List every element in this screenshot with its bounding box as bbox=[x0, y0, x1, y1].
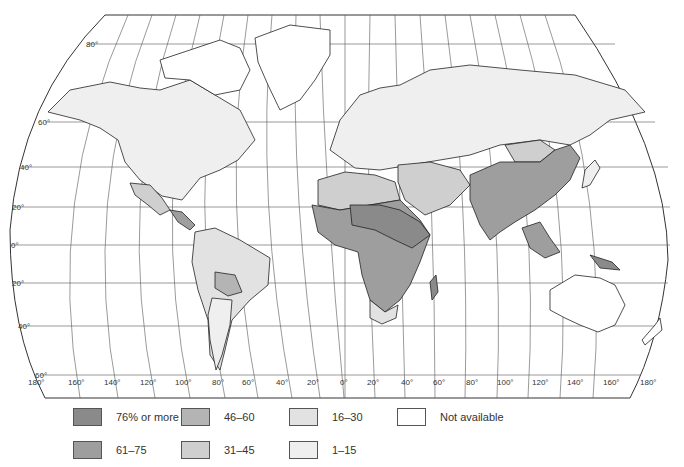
legend-item-31-45: 31–45 bbox=[181, 440, 255, 460]
legend-label: Not available bbox=[440, 411, 504, 423]
legend-swatch bbox=[181, 408, 210, 426]
legend-swatch bbox=[289, 441, 318, 459]
region-greenland bbox=[255, 25, 330, 110]
legend-item-61-75: 61–75 bbox=[73, 440, 147, 460]
legend-label: 76% or more bbox=[116, 411, 179, 423]
region-australia bbox=[550, 275, 625, 332]
region-central-america bbox=[170, 210, 195, 230]
legend-label: 31–45 bbox=[224, 444, 255, 456]
legend-label: 16–30 bbox=[332, 411, 363, 423]
svg-text:120°: 120° bbox=[140, 378, 157, 387]
legend-swatch bbox=[73, 441, 102, 459]
svg-text:60°: 60° bbox=[242, 378, 254, 387]
svg-text:180°: 180° bbox=[640, 378, 657, 387]
svg-text:60°: 60° bbox=[433, 378, 445, 387]
legend-label: 46–60 bbox=[224, 411, 255, 423]
svg-text:80°: 80° bbox=[466, 378, 478, 387]
legend-swatch bbox=[181, 441, 210, 459]
svg-text:140°: 140° bbox=[104, 378, 121, 387]
legend-item-46-60: 46–60 bbox=[181, 407, 255, 427]
svg-text:120°: 120° bbox=[532, 378, 549, 387]
legend-item-76-or-more: 76% or more bbox=[73, 407, 179, 427]
legend-label: 61–75 bbox=[116, 444, 147, 456]
svg-text:20°: 20° bbox=[367, 378, 379, 387]
region-madagascar bbox=[430, 275, 438, 300]
region-north-america bbox=[48, 80, 255, 200]
svg-text:60°: 60° bbox=[38, 118, 50, 127]
svg-text:160°: 160° bbox=[603, 378, 620, 387]
region-japan bbox=[582, 160, 600, 188]
svg-text:40°: 40° bbox=[401, 378, 413, 387]
longitude-labels: 180° 160° 140° 120° 100° 80° 60° 40° 20°… bbox=[28, 378, 657, 387]
region-eurasia-north bbox=[330, 65, 645, 170]
svg-text:20°: 20° bbox=[12, 279, 24, 288]
legend-swatch bbox=[397, 408, 426, 426]
legend-item-not-available: Not available bbox=[397, 407, 504, 427]
svg-text:80°: 80° bbox=[86, 40, 98, 49]
legend-swatch bbox=[289, 408, 318, 426]
svg-text:0°: 0° bbox=[340, 378, 348, 387]
region-new-zealand bbox=[642, 318, 662, 345]
legend-swatch bbox=[73, 408, 102, 426]
svg-text:80°: 80° bbox=[212, 378, 224, 387]
legend-label: 1–15 bbox=[332, 444, 356, 456]
region-southeast-asia bbox=[522, 222, 560, 258]
svg-text:40°: 40° bbox=[276, 378, 288, 387]
landmasses bbox=[48, 25, 662, 370]
region-south-america bbox=[192, 228, 270, 370]
svg-text:20°: 20° bbox=[307, 378, 319, 387]
svg-text:160°: 160° bbox=[68, 378, 85, 387]
legend-item-16-30: 16–30 bbox=[289, 407, 363, 427]
legend-item-1-15: 1–15 bbox=[289, 440, 356, 460]
region-papua-new-guinea bbox=[590, 255, 620, 270]
svg-text:100°: 100° bbox=[175, 378, 192, 387]
svg-text:40°: 40° bbox=[20, 163, 32, 172]
svg-text:100°: 100° bbox=[497, 378, 514, 387]
legend: 76% or more 61–75 46–60 31–45 16–30 1–15… bbox=[0, 400, 684, 467]
svg-text:40°: 40° bbox=[18, 322, 30, 331]
svg-text:140°: 140° bbox=[567, 378, 584, 387]
world-map: 80° 60° 40° 20° 0° 20° 40° 60° 180° 160°… bbox=[0, 0, 684, 400]
svg-text:0°: 0° bbox=[11, 241, 19, 250]
svg-text:20°: 20° bbox=[12, 203, 24, 212]
svg-text:180°: 180° bbox=[28, 378, 45, 387]
